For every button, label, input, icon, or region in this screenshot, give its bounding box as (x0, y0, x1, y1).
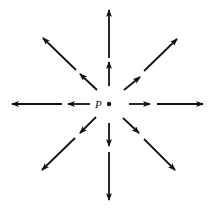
point-p-dot (107, 102, 111, 106)
arrow-up-right-short-icon (124, 77, 140, 90)
arrow-up-left-short-icon (80, 74, 97, 90)
arrow-down-right-short-icon (123, 118, 139, 133)
arrow-up-left-long-icon (43, 38, 76, 70)
arrow-up-right-long-icon (144, 39, 177, 71)
point-p-label: P (94, 98, 102, 110)
radial-field-diagram: P (0, 0, 212, 209)
arrow-down-left-long-icon (42, 138, 75, 170)
arrow-down-right-long-icon (144, 139, 175, 170)
arrow-down-left-short-icon (80, 117, 96, 133)
